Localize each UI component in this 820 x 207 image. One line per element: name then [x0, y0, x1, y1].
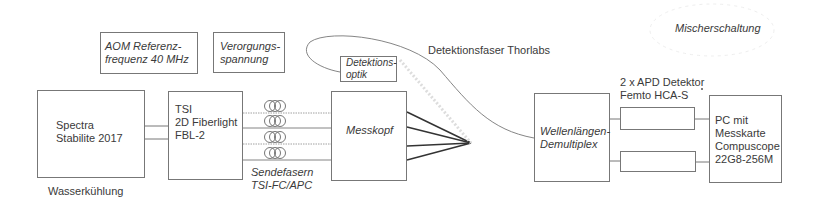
messkopf-label: Messkopf: [346, 124, 393, 137]
versorgungsspannung-label: Verorgungs- spannung: [220, 40, 280, 66]
aom-reference-box: AOM Referenz- frequenz 40 MHz: [100, 32, 198, 74]
apd-detektor-label: 2 x APD Detektor Femto HCA-S: [620, 76, 704, 102]
sendefasern-fibers: [243, 113, 331, 160]
fiber-coil-icons: [265, 101, 286, 159]
messkopf-box: Messkopf: [331, 91, 407, 181]
pc-messkarte-label: PC mit Messkarte Compuscope 22G8-256M: [715, 114, 780, 166]
aom-reference-label: AOM Referenz- frequenz 40 MHz: [105, 40, 189, 66]
detektionsfaser-label: Detektionsfaser Thorlabs: [428, 44, 550, 57]
wasserkuehlung-caption: Wasserkühlung: [48, 185, 123, 198]
fiber-coil-icon-2: [265, 116, 286, 127]
tsi-fiberlight-box: TSI 2D Fiberlight FBL-2: [168, 91, 243, 180]
fiber-coil-icon-3: [265, 132, 286, 143]
tsi-fiberlight-label: TSI 2D Fiberlight FBL-2: [175, 103, 237, 142]
fiber-coil-icon-1: [265, 101, 286, 112]
detektionsoptik-label: Detektions- optik: [346, 57, 397, 81]
faint-beam-shadow: [400, 60, 471, 143]
wellenlaengen-demultiplex-box: Wellenlängen- Demultiplex: [534, 93, 610, 182]
detektionsoptik-box: Detektions- optik: [340, 56, 397, 82]
wellenlaengen-demultiplex-label: Wellenlängen- Demultiplex: [540, 125, 610, 151]
converging-beams: [407, 112, 471, 160]
mischerschaltung-label: Mischerschaltung: [675, 22, 761, 35]
apd-detector-2-box: [620, 151, 696, 172]
sendefasern-label: Sendefasern TSI-FC/APC: [251, 166, 313, 192]
versorgungsspannung-box: Verorgungs- spannung: [213, 32, 285, 73]
apd-detector-1-box: [620, 107, 695, 130]
measurement-setup-diagram: AOM Referenz- frequenz 40 MHz Verorgungs…: [0, 0, 820, 207]
laser-box: Spectra Stabilite 2017: [37, 90, 145, 178]
fiber-coil-icon-4: [265, 148, 286, 159]
laser-label: Spectra Stabilite 2017: [56, 119, 123, 145]
pc-messkarte-box: PC mit Messkarte Compuscope 22G8-256M: [709, 95, 782, 183]
